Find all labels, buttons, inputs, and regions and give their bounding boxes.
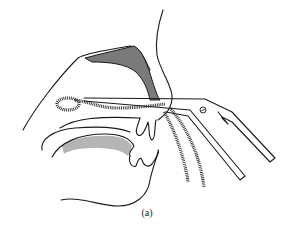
figure-caption: (a): [0, 207, 294, 218]
sinus-shaded-region: [85, 46, 160, 100]
palate-shaded-region: [62, 136, 132, 156]
uvula: [136, 118, 156, 140]
instrument-shaft: [84, 98, 275, 162]
instrument-arm: [218, 112, 228, 124]
nasal-passage: [60, 117, 140, 128]
instrument-screw-icon: [200, 107, 206, 113]
coiled-tube-1: [164, 112, 188, 182]
tongue-base: [61, 152, 158, 206]
